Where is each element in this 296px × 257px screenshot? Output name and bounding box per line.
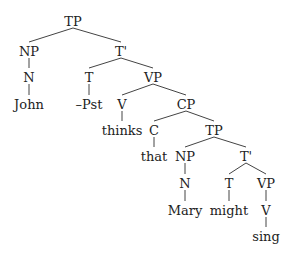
- tree-edge: [121, 58, 153, 68]
- tree-edge: [214, 137, 246, 147]
- tree-node-cp: CP: [177, 97, 196, 112]
- tree-node-thinks: thinks: [102, 123, 143, 138]
- tree-node-vp2: VP: [256, 176, 275, 191]
- tree-node-john: John: [12, 97, 44, 112]
- tree-nodes: TPNPT'NJohnT–PstVPVthinksCPCthatTPNPNMar…: [12, 14, 280, 244]
- tree-node-pst: –Pst: [76, 97, 104, 112]
- tree-edge: [122, 84, 153, 95]
- tree-node-that: that: [141, 149, 168, 164]
- tree-node-mary: Mary: [168, 203, 203, 218]
- tree-node-np1: NP: [19, 44, 39, 59]
- tree-node-sing: sing: [252, 229, 280, 244]
- tree-node-tbar2: T': [240, 149, 252, 164]
- tree-node-n2: N: [179, 176, 190, 191]
- tree-edge: [186, 111, 214, 121]
- tree-node-n1: N: [23, 70, 34, 85]
- tree-node-tp1: TP: [64, 14, 82, 29]
- tree-node-vp1: VP: [143, 70, 162, 85]
- tree-edge: [246, 163, 266, 174]
- tree-edge: [154, 111, 186, 121]
- tree-edge: [29, 28, 73, 42]
- tree-node-might: might: [210, 203, 249, 218]
- tree-node-c: C: [149, 123, 159, 138]
- tree-edge: [89, 58, 121, 68]
- syntax-tree: TPNPT'NJohnT–PstVPVthinksCPCthatTPNPNMar…: [0, 0, 296, 257]
- tree-node-v1: V: [116, 97, 127, 112]
- tree-node-t2: T: [225, 176, 234, 191]
- tree-node-np2: NP: [175, 149, 195, 164]
- tree-node-v2: V: [260, 203, 271, 218]
- tree-node-tbar1: T': [115, 44, 127, 59]
- tree-edge: [229, 163, 246, 174]
- tree-edge: [73, 28, 121, 42]
- tree-edge: [153, 84, 186, 95]
- tree-node-t1: T: [85, 70, 94, 85]
- tree-node-tp2: TP: [205, 123, 223, 138]
- tree-edge: [185, 137, 214, 147]
- tree-edges: [29, 28, 266, 227]
